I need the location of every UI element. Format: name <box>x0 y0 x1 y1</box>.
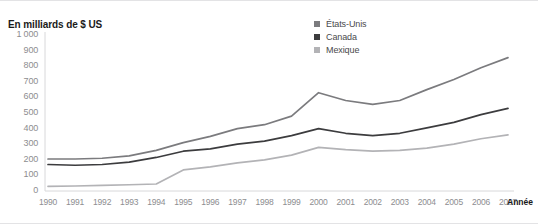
legend-swatch-icon <box>314 34 320 40</box>
series-line--tats-unis <box>48 58 508 159</box>
series-line-mexique <box>48 135 508 186</box>
legend-item-canada: Canada <box>314 30 367 43</box>
legend-swatch-icon <box>314 47 320 53</box>
chart-legend: États-UnisCanadaMexique <box>314 17 367 56</box>
plot-area <box>0 1 538 224</box>
legend-label: États-Unis <box>326 19 367 29</box>
x-axis-title: Année <box>507 197 533 207</box>
legend-label: Mexique <box>326 45 359 55</box>
chart-figure: En milliards de $ US 1 00090080070060050… <box>0 0 538 224</box>
legend-item-mexique: Mexique <box>314 43 367 56</box>
legend-swatch-icon <box>314 21 320 27</box>
legend-item--tats-unis: États-Unis <box>314 17 367 30</box>
legend-label: Canada <box>326 32 357 42</box>
